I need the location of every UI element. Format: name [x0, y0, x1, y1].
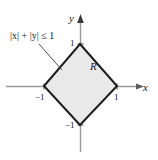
region-label: R	[89, 60, 97, 72]
region-diamond	[44, 44, 117, 125]
region-diagram-svg: |x| + |y| ≤ 1 R y x 1 −1 1 −1	[0, 0, 158, 160]
region-shape-group	[44, 44, 117, 125]
leader-line	[39, 44, 62, 70]
x-axis-label: x	[142, 81, 148, 93]
figure-container: |x| + |y| ≤ 1 R y x 1 −1 1 −1	[0, 0, 158, 160]
y-tick-positive-label: 1	[70, 38, 75, 48]
y-tick-negative-label: −1	[65, 120, 75, 130]
x-tick-negative-label: −1	[35, 92, 45, 102]
x-tick-positive-label: 1	[114, 92, 119, 102]
y-axis-arrow-icon	[77, 14, 84, 23]
inequality-label: |x| + |y| ≤ 1	[10, 30, 54, 41]
y-axis-label: y	[68, 12, 74, 24]
